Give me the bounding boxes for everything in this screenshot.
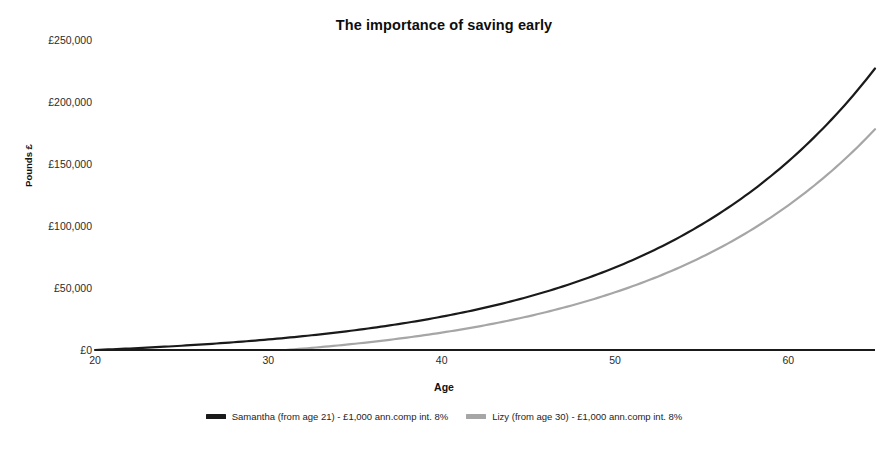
legend-label: Lizy (from age 30) - £1,000 ann.comp int… xyxy=(492,411,682,422)
y-axis-tick-label: £100,000 xyxy=(30,220,92,232)
legend-color-swatch xyxy=(466,414,486,419)
x-axis-tick-label: 40 xyxy=(436,354,448,366)
series-canvas xyxy=(95,40,875,350)
legend-entry[interactable]: Lizy (from age 30) - £1,000 ann.comp int… xyxy=(466,411,682,422)
chart-title: The importance of saving early xyxy=(0,17,888,33)
x-axis-tick-label: 20 xyxy=(89,354,101,366)
legend-entry[interactable]: Samantha (from age 21) - £1,000 ann.comp… xyxy=(206,411,449,422)
x-axis-tick-label: 30 xyxy=(262,354,274,366)
x-axis-tick-label: 50 xyxy=(609,354,621,366)
legend-label: Samantha (from age 21) - £1,000 ann.comp… xyxy=(232,411,449,422)
chart-legend: Samantha (from age 21) - £1,000 ann.comp… xyxy=(0,411,888,422)
y-axis-tick-label: £250,000 xyxy=(30,34,92,46)
series-line xyxy=(95,69,875,350)
x-axis-tick-label: 60 xyxy=(782,354,794,366)
plot-area xyxy=(95,40,875,350)
x-axis-tick-labels: 2030405060 xyxy=(0,354,888,370)
y-axis-tick-label: £200,000 xyxy=(30,96,92,108)
x-axis-line xyxy=(95,349,875,351)
chart-container: The importance of saving early Pounds £ … xyxy=(0,0,888,453)
y-axis-tick-label: £50,000 xyxy=(30,282,92,294)
x-axis-title: Age xyxy=(0,381,888,393)
legend-color-swatch xyxy=(206,414,226,419)
y-axis-tick-label: £150,000 xyxy=(30,158,92,170)
